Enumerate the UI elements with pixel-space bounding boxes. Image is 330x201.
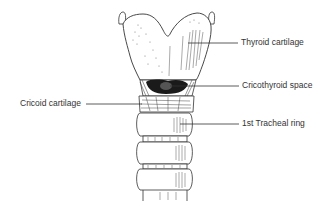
label-thyroid-cartilage: Thyroid cartilage (241, 37, 304, 47)
label-cricothyroid-space: Cricothyroid space (242, 80, 312, 90)
label-first-tracheal-ring: 1st Tracheal ring (242, 118, 305, 128)
cricothyroid-space (140, 80, 196, 96)
trachea (137, 113, 193, 201)
cricoid-cartilage (139, 96, 194, 112)
label-cricoid-cartilage: Cricoid cartilage (20, 98, 81, 108)
thyroid-cartilage (123, 13, 211, 80)
